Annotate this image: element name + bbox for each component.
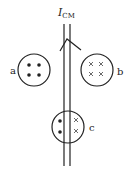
dot-icons bbox=[58, 119, 62, 134]
current-label: ICM bbox=[57, 6, 75, 20]
circle-b-label: b bbox=[117, 66, 123, 77]
magnetic-field-diagram: ICM a bbox=[0, 0, 131, 177]
wire-pair bbox=[64, 24, 70, 166]
cross-icons bbox=[89, 62, 103, 76]
cross-icons bbox=[74, 118, 78, 133]
circle-a: a bbox=[10, 54, 50, 86]
circle-c: c bbox=[52, 111, 95, 143]
circle-c-label: c bbox=[89, 122, 95, 133]
circle-b: b bbox=[81, 54, 123, 86]
circle-a-label: a bbox=[10, 65, 16, 76]
dot-icons bbox=[27, 63, 41, 77]
